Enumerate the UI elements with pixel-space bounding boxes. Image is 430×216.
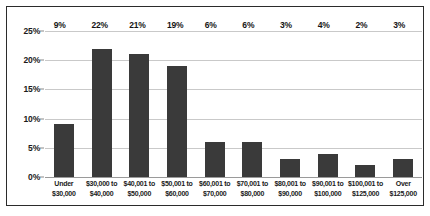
x-axis-category-label-line: $100,000 (309, 189, 347, 199)
x-axis-category-labels: Under$30,000$30,000 to$40,000$40,001 to$… (45, 179, 422, 199)
bar-value-label: 3% (280, 20, 292, 30)
bar-slot: 21% (120, 31, 158, 177)
y-axis-tick-mark (40, 118, 44, 119)
x-axis-category-label-line: $50,000 (120, 189, 158, 199)
bar-slot: 19% (158, 31, 196, 177)
x-axis-category-label-line: $70,000 (196, 189, 234, 199)
bar-slot: 6% (196, 31, 234, 177)
bar-slot: 6% (234, 31, 272, 177)
x-axis-category-label-line: $80,001 to (271, 179, 309, 189)
bar-value-label: 4% (318, 20, 330, 30)
x-axis-category-label-line: $30,000 (45, 189, 83, 199)
x-axis-category-label-line: Under (45, 179, 83, 189)
y-axis-tick-label: 15% (24, 84, 40, 94)
x-axis-category-label-line: $90,000 (271, 189, 309, 199)
y-axis-tick-label: 0% (28, 172, 40, 182)
bar[interactable]: 9% (54, 124, 74, 177)
bar[interactable]: 19% (167, 66, 187, 177)
bar-value-label: 6% (205, 20, 217, 30)
plot-area: 0%5%10%15%20%25% 9%22%21%19%6%6%3%4%2%3% (45, 31, 422, 177)
bar-value-label: 19% (167, 20, 183, 30)
gridline-0 (45, 177, 422, 178)
x-axis-category-label-line: $90,001 to (309, 179, 347, 189)
x-axis-category-label: $30,000 to$40,000 (83, 179, 121, 199)
chart-frame: 0%5%10%15%20%25% 9%22%21%19%6%6%3%4%2%3%… (6, 6, 424, 206)
y-axis-tick-mark (40, 177, 44, 178)
x-axis-category-label-line: $40,000 (83, 189, 121, 199)
x-axis-category-label-line: $60,000 (158, 189, 196, 199)
bar[interactable]: 6% (242, 142, 262, 177)
x-axis-category-label-line: $80,000 (234, 189, 272, 199)
x-axis-category-label-line: $50,001 to (158, 179, 196, 189)
bar[interactable]: 2% (355, 165, 375, 177)
y-axis-tick-mark (40, 60, 44, 61)
y-axis-tick-label: 5% (28, 143, 40, 153)
bar-series: 9%22%21%19%6%6%3%4%2%3% (45, 31, 422, 177)
x-axis-category-label: $80,001 to$90,000 (271, 179, 309, 199)
x-axis-category-label-line: $30,000 to (83, 179, 121, 189)
x-axis-category-label-line: $125,000 (384, 189, 422, 199)
bar[interactable]: 3% (393, 159, 413, 177)
bar-slot: 9% (45, 31, 83, 177)
y-axis-tick-label: 20% (24, 55, 40, 65)
bar[interactable]: 4% (318, 154, 338, 177)
x-axis-category-label: $100,001 to$125,000 (347, 179, 385, 199)
bar-value-label: 2% (355, 20, 367, 30)
bar-slot: 3% (271, 31, 309, 177)
y-axis-tick-mark (40, 89, 44, 90)
bar[interactable]: 21% (129, 54, 149, 177)
bar[interactable]: 22% (92, 49, 112, 177)
x-axis-category-label-line: Over (384, 179, 422, 189)
bar-value-label: 6% (242, 20, 254, 30)
bar-value-label: 9% (54, 20, 66, 30)
x-axis-category-label: $70,001 to$80,000 (234, 179, 272, 199)
x-axis-category-label-line: $70,001 to (234, 179, 272, 189)
bar-value-label: 21% (129, 20, 145, 30)
bar-slot: 3% (384, 31, 422, 177)
y-axis-tick-mark (40, 31, 44, 32)
x-axis-category-label: $60,001 to$70,000 (196, 179, 234, 199)
bar[interactable]: 3% (280, 159, 300, 177)
bar[interactable]: 6% (205, 142, 225, 177)
x-axis-category-label: $40,001 to$50,000 (120, 179, 158, 199)
bar-slot: 2% (347, 31, 385, 177)
y-axis-tick-label: 10% (24, 114, 40, 124)
x-axis-category-label-line: $125,000 (347, 189, 385, 199)
x-axis-category-label-line: $60,001 to (196, 179, 234, 189)
y-axis-tick-label: 25% (24, 26, 40, 36)
x-axis-category-label: $90,001 to$100,000 (309, 179, 347, 199)
bar-slot: 4% (309, 31, 347, 177)
x-axis-category-label: $50,001 to$60,000 (158, 179, 196, 199)
x-axis-category-label: Under$30,000 (45, 179, 83, 199)
x-axis-category-label-line: $40,001 to (120, 179, 158, 189)
bar-value-label: 3% (393, 20, 405, 30)
y-axis-tick-mark (40, 147, 44, 148)
x-axis-category-label-line: $100,001 to (347, 179, 385, 189)
x-axis-category-label: Over$125,000 (384, 179, 422, 199)
bar-slot: 22% (83, 31, 121, 177)
bar-value-label: 22% (92, 20, 108, 30)
